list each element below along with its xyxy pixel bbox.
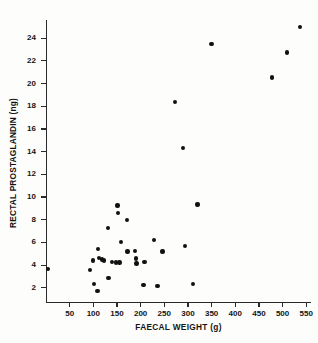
data-point (88, 268, 92, 272)
scatter-plot-figure: RECTAL PROSTAGLANDIN (ng) 24681012141618… (0, 0, 318, 343)
y-axis-tick-label: 8 (12, 216, 36, 224)
data-point (125, 218, 129, 222)
data-point (270, 75, 274, 79)
x-axis-tick (235, 302, 236, 307)
data-point (141, 283, 145, 287)
y-axis-tick-label: 10 (12, 193, 36, 201)
plot-area (46, 14, 311, 302)
x-axis-tick (116, 302, 117, 307)
data-point (91, 258, 95, 262)
x-axis-tick (93, 302, 94, 307)
y-axis-tick-label: 6 (12, 238, 36, 246)
data-point (115, 203, 119, 207)
data-point (92, 282, 96, 286)
y-axis-label: RECTAL PROSTAGLANDIN (ng) (4, 33, 22, 293)
data-point (195, 202, 199, 206)
y-axis-tick-label: 2 (12, 284, 36, 292)
x-axis-label: FAECAL WEIGHT (g) (46, 322, 311, 332)
data-point (125, 249, 129, 253)
y-axis-tick-label: 18 (12, 102, 36, 110)
y-axis-tick-label: 4 (12, 261, 36, 269)
data-point (134, 256, 138, 260)
data-point (191, 282, 195, 286)
x-axis-tick (69, 302, 70, 307)
x-axis-tick (187, 302, 188, 307)
y-axis-tick-label: 14 (12, 148, 36, 156)
x-axis-tick (258, 302, 259, 307)
data-point (285, 50, 289, 54)
x-axis-tick (211, 302, 212, 307)
data-point (173, 100, 177, 104)
data-point (142, 260, 146, 264)
y-axis-tick-label: 24 (12, 34, 36, 42)
x-axis-tick (140, 302, 141, 307)
y-axis-tick-label: 22 (12, 57, 36, 65)
x-axis-tick-label: 550 (291, 310, 318, 318)
x-axis-tick (306, 302, 307, 307)
y-axis-tick-label: 12 (12, 170, 36, 178)
y-axis-tick-label: 20 (12, 80, 36, 88)
data-point (160, 249, 164, 253)
data-point (209, 42, 213, 46)
x-axis-tick (164, 302, 165, 307)
data-point (117, 260, 121, 264)
y-axis-tick-label: 16 (12, 125, 36, 133)
x-axis-tick (282, 302, 283, 307)
data-point (134, 261, 138, 265)
